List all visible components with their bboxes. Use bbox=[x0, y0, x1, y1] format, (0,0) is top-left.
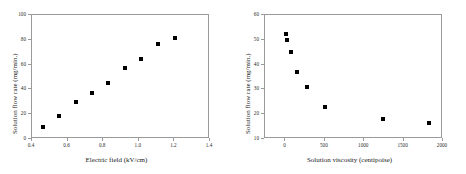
x-axis-tick-label: 0 bbox=[283, 142, 286, 148]
chart-panel-viscosity: 0500100015002000102030405060 Solution vi… bbox=[233, 0, 466, 174]
x-axis-tick bbox=[284, 138, 285, 141]
y-axis-tick bbox=[261, 113, 264, 114]
data-point bbox=[74, 100, 78, 104]
y-axis-tick-label: 30 bbox=[254, 85, 259, 91]
data-point bbox=[284, 32, 288, 36]
y-axis-tick-label: 60 bbox=[21, 61, 26, 67]
plot-frame bbox=[264, 14, 442, 138]
chart-panel-electric-field: 0.40.60.81.01.21.4020406080100 Electric … bbox=[0, 0, 233, 174]
x-axis-tick bbox=[403, 138, 404, 141]
x-axis-tick-label: 1000 bbox=[358, 142, 368, 148]
x-axis-tick bbox=[363, 138, 364, 141]
data-point bbox=[156, 42, 160, 46]
data-point bbox=[295, 70, 299, 74]
y-axis-tick-label: 20 bbox=[21, 110, 26, 116]
data-point bbox=[90, 91, 94, 95]
x-axis-tick-label: 2000 bbox=[437, 142, 447, 148]
y-axis-tick bbox=[28, 14, 31, 15]
x-axis-tick-label: 1.2 bbox=[170, 142, 176, 148]
y-axis-tick-label: 60 bbox=[254, 11, 259, 17]
y-axis-tick bbox=[261, 14, 264, 15]
x-axis-tick-label: 500 bbox=[320, 142, 328, 148]
y-axis-tick-label: 0 bbox=[23, 135, 26, 141]
data-point bbox=[305, 85, 309, 89]
data-point bbox=[57, 114, 61, 118]
data-point bbox=[427, 121, 431, 125]
plot-area-electric-field: 0.40.60.81.01.21.4020406080100 bbox=[31, 14, 209, 138]
data-point bbox=[139, 57, 143, 61]
y-axis-tick bbox=[28, 138, 31, 139]
x-axis-tick bbox=[31, 138, 32, 141]
y-axis-title: Solution flow rate (mg/min.) bbox=[244, 54, 252, 135]
data-point bbox=[173, 36, 177, 40]
y-axis-tick-label: 10 bbox=[254, 135, 259, 141]
x-axis-tick bbox=[173, 138, 174, 141]
x-axis-tick-label: 1.0 bbox=[135, 142, 141, 148]
x-axis-tick-label: 0.6 bbox=[63, 142, 69, 148]
y-axis-tick-label: 20 bbox=[254, 110, 259, 116]
x-axis-tick bbox=[442, 138, 443, 141]
x-axis-title: Electric field (kV/cm) bbox=[86, 156, 148, 164]
y-axis-tick bbox=[261, 64, 264, 65]
data-point bbox=[381, 117, 385, 121]
data-point bbox=[106, 81, 110, 85]
data-point bbox=[323, 105, 327, 109]
data-point bbox=[41, 125, 45, 129]
data-point bbox=[123, 66, 127, 70]
y-axis-tick-label: 80 bbox=[21, 36, 26, 42]
x-axis-title: Solution viscosity (centipoise) bbox=[307, 156, 392, 164]
y-axis-tick bbox=[261, 138, 264, 139]
data-point bbox=[285, 38, 289, 42]
x-axis-tick bbox=[67, 138, 68, 141]
y-axis-tick bbox=[28, 64, 31, 65]
y-axis-tick-label: 50 bbox=[254, 36, 259, 42]
x-axis-tick bbox=[209, 138, 210, 141]
plot-frame bbox=[31, 14, 209, 138]
y-axis-tick bbox=[28, 113, 31, 114]
x-axis-tick-label: 1500 bbox=[397, 142, 407, 148]
plot-area-viscosity: 0500100015002000102030405060 bbox=[264, 14, 442, 138]
y-axis-title: Solution flow rate (mg/min.) bbox=[11, 54, 19, 135]
x-axis-tick bbox=[324, 138, 325, 141]
x-axis-tick bbox=[102, 138, 103, 141]
y-axis-tick bbox=[261, 88, 264, 89]
y-axis-tick bbox=[28, 39, 31, 40]
figure-canvas: 0.40.60.81.01.21.4020406080100 Electric … bbox=[0, 0, 466, 174]
x-axis-tick-label: 0.4 bbox=[28, 142, 34, 148]
y-axis-tick bbox=[28, 88, 31, 89]
x-axis-tick bbox=[138, 138, 139, 141]
x-axis-tick-label: 0.8 bbox=[99, 142, 105, 148]
y-axis-tick bbox=[261, 39, 264, 40]
x-axis-tick-label: 1.4 bbox=[206, 142, 212, 148]
y-axis-tick-label: 40 bbox=[21, 85, 26, 91]
y-axis-tick-label: 40 bbox=[254, 61, 259, 67]
y-axis-tick-label: 100 bbox=[18, 11, 26, 17]
data-point bbox=[289, 50, 293, 54]
